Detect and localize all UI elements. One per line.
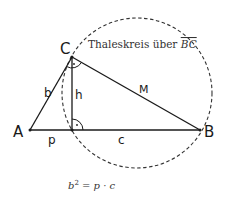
point-b-dot	[199, 129, 202, 132]
label-a: A	[13, 123, 24, 141]
point-c-dot	[71, 56, 74, 59]
label-b: B	[204, 123, 214, 141]
right-angle-dot-foot	[76, 124, 78, 126]
label-h: h	[75, 88, 83, 102]
formula: b2 = p · c	[68, 179, 116, 191]
point-a-dot	[29, 129, 32, 132]
label-m: M	[139, 83, 149, 96]
thales-circle-label: Thaleskreis über BC	[88, 38, 197, 50]
label-p: p	[48, 133, 56, 147]
right-angle-dot-c	[73, 63, 75, 65]
point-foot-dot	[71, 129, 74, 132]
label-c-side: c	[118, 133, 125, 147]
label-c: C	[60, 40, 70, 58]
label-b-side: b	[44, 86, 52, 100]
thales-diagram: A B C b h p c M Thaleskreis über BC b2 =…	[0, 0, 226, 200]
side-a	[72, 57, 200, 130]
